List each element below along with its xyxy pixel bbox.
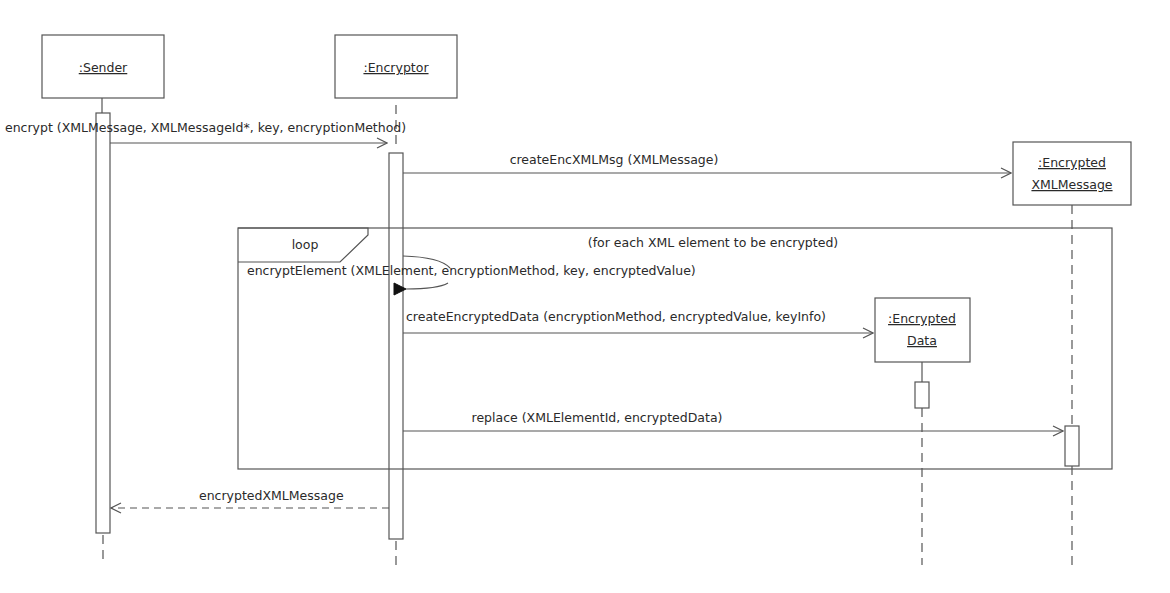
encrypted-xml-message-label-line1: :Encrypted xyxy=(1038,155,1106,170)
encrypted-data-activation-bar xyxy=(915,382,929,408)
message-replace: replace (XMLElementId, encryptedData) xyxy=(403,410,1063,431)
message-return-label: encryptedXMLMessage xyxy=(199,488,344,503)
encrypted-xml-message-object-box xyxy=(1013,142,1131,205)
loop-operator-label: loop xyxy=(292,237,319,252)
message-replace-label: replace (XMLElementId, encryptedData) xyxy=(472,410,723,425)
encrypted-data-label-line2: Data xyxy=(907,333,937,348)
encrypted-data-object-box xyxy=(875,298,970,362)
message-encrypt: encrypt (XMLMessage, XMLMessageId*, key,… xyxy=(5,120,406,143)
message-create-encrypted-data-label: createEncryptedData (encryptionMethod, e… xyxy=(406,309,826,324)
message-create-encrypted-data: createEncryptedData (encryptionMethod, e… xyxy=(403,309,873,333)
message-encrypt-element-label: encryptElement (XMLElement, encryptionMe… xyxy=(247,263,696,278)
lifeline-encrypted-xml-message: :Encrypted XMLMessage xyxy=(1013,142,1131,565)
message-encrypt-label: encrypt (XMLMessage, XMLMessageId*, key,… xyxy=(5,120,406,135)
loop-guard: (for each XML element to be encrypted) xyxy=(588,235,838,250)
encryptor-activation-bar xyxy=(389,153,403,539)
encrypted-xml-message-label-line2: XMLMessage xyxy=(1031,177,1112,192)
encryptor-label: :Encryptor xyxy=(363,60,429,75)
sender-label: :Sender xyxy=(79,60,128,75)
lifeline-encryptor: :Encryptor xyxy=(335,35,457,565)
sender-activation-bar xyxy=(96,113,110,533)
sequence-diagram: :Sender :Encryptor :Encrypted XMLMessage… xyxy=(0,0,1170,593)
message-return-encrypted-xml-message: encryptedXMLMessage xyxy=(111,488,389,508)
lifeline-sender: :Sender xyxy=(42,35,164,565)
message-encrypt-element: encryptElement (XMLElement, encryptionMe… xyxy=(247,256,696,289)
message-create-enc-xml-msg: createEncXMLMsg (XMLMessage) xyxy=(403,152,1011,173)
encrypted-xml-message-activation-bar xyxy=(1065,426,1079,466)
message-create-enc-xml-msg-label: createEncXMLMsg (XMLMessage) xyxy=(510,152,719,167)
encrypted-data-label-line1: :Encrypted xyxy=(888,311,956,326)
